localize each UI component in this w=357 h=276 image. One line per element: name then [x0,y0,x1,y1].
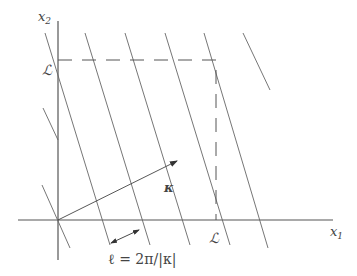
wavelength-arrow [111,230,139,243]
period-box-dashed [58,60,216,220]
period-label-y: ℒ [42,62,53,78]
x2-axis-label: x2 [38,9,51,26]
wavevector-arrow [58,161,177,220]
wavevector-label: κ [163,180,174,195]
wavelength-label: ℓ = 2π/|κ| [108,251,176,268]
wavefront-diagram: x2 x1 ℒ ℒ κ ℓ = 2π/|κ| [0,0,357,276]
wavefront-line [165,33,230,245]
x1-axis-label: x1 [330,224,343,241]
wavefront-lines [42,33,270,248]
wavefront-line [43,108,58,140]
period-label-x: ℒ [209,230,220,246]
wavefront-line [125,33,190,245]
wavefront-line [85,33,150,245]
wavefront-line [243,33,270,90]
